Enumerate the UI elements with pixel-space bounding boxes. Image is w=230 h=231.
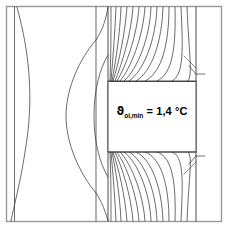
isotherm-contour-plot: [0, 0, 230, 231]
isotherm-figure: ϑoi,min = 1,4 °C: [0, 0, 230, 231]
label-box: [108, 81, 196, 152]
